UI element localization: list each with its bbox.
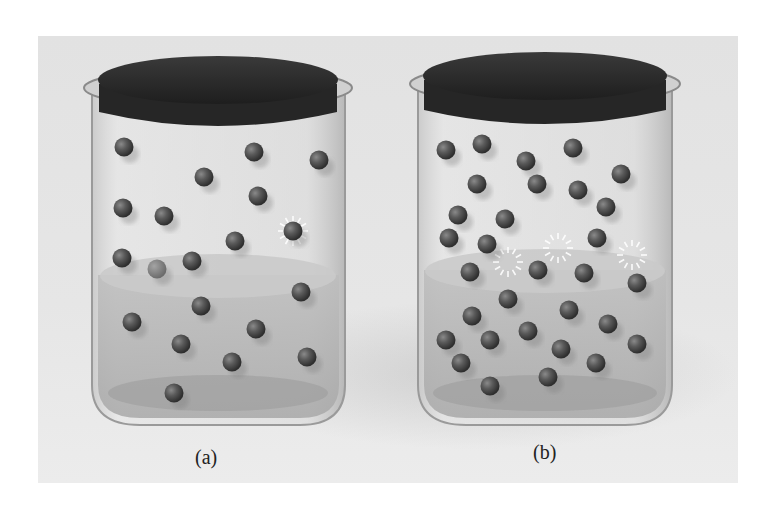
vapor-molecule [195,168,214,187]
liquid-molecule [298,348,317,367]
jar-a [84,56,352,425]
liquid-molecule [552,340,571,359]
vapor-molecule [468,175,487,194]
liquid-molecule [123,313,142,332]
vapor-molecule [588,229,607,248]
jar-b-label: (b) [533,441,556,464]
jar-b [410,52,680,425]
vapor-molecule [114,199,133,218]
liquid-molecule [165,384,184,403]
vapor-molecule [569,181,588,200]
liquid-molecule [599,315,618,334]
vapor-molecule [612,165,631,184]
vapor-molecule [478,235,497,254]
vapor-molecule [310,151,329,170]
liquid-molecule [539,368,558,387]
vapor-molecule [284,222,303,241]
vapor-molecule [449,206,468,225]
liquid-molecule [587,354,606,373]
vapor-molecule [517,152,536,171]
vapor-molecule [148,260,167,279]
vapor-molecule [440,229,459,248]
vapor-molecule [597,198,616,217]
liquid-molecule [575,264,594,283]
liquid-molecule [223,353,242,372]
liquid-molecule [499,290,518,309]
vapor-molecule [183,252,202,271]
vapor-molecule [115,138,134,157]
vapor-molecule [113,249,132,268]
vapor-molecule [528,175,547,194]
liquid-molecule [529,261,548,280]
liquid-molecule [292,283,311,302]
vapor-molecule [473,135,492,154]
jar-a-label: (a) [195,446,217,469]
liquid-molecule [247,320,266,339]
vapor-molecule [249,187,268,206]
vapor-molecule [155,207,174,226]
jar-a-bottom [108,375,328,411]
vapor-molecule [226,232,245,251]
liquid-molecule [519,322,538,341]
liquid-molecule [560,301,579,320]
liquid-molecule [192,297,211,316]
liquid-molecule [628,335,647,354]
liquid-molecule [481,331,500,350]
liquid-molecule [437,331,456,350]
jar-b-lid [423,52,667,100]
liquid-molecule [452,354,471,373]
liquid-molecule [481,377,500,396]
liquid-molecule [628,274,647,293]
figure-canvas [0,0,779,516]
vapor-molecule [496,210,515,229]
liquid-molecule [172,335,191,354]
vapor-molecule [245,143,264,162]
liquid-molecule [463,307,482,326]
vapor-molecule [564,139,583,158]
liquid-molecule [461,263,480,282]
vapor-molecule [437,141,456,160]
jar-a-lid [98,56,338,104]
